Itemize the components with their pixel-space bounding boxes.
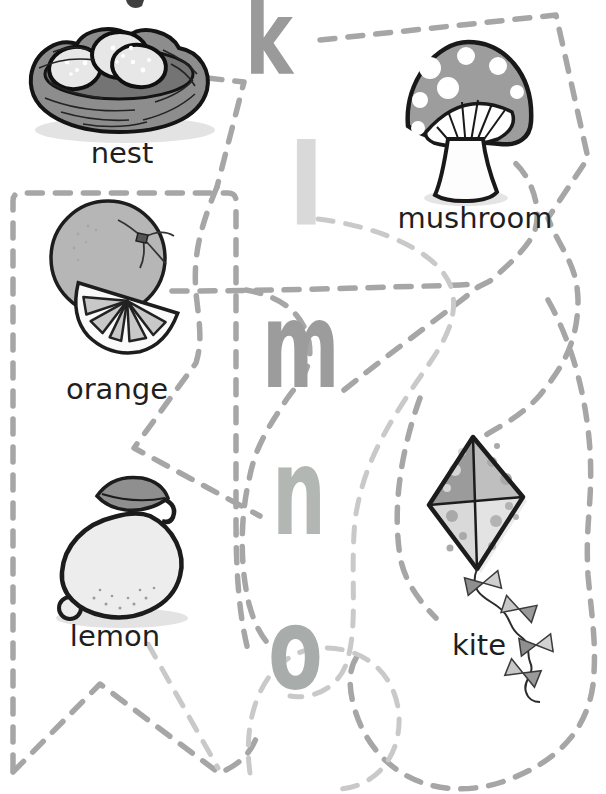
letter-k[interactable]: k [245,0,293,90]
kite-illustration[interactable] [429,437,553,702]
orange-illustration[interactable] [51,201,178,366]
letter-n[interactable]: n [272,431,326,553]
letter-m[interactable]: m [262,286,340,406]
nest-illustration[interactable] [31,29,215,143]
mushroom-label: mushroom [395,201,555,235]
worksheet-page: k l m n o nest mushroom orange lemon kit… [0,0,606,794]
orange-label: orange [54,372,180,406]
lemon-label: lemon [52,619,178,653]
kite-label: kite [428,628,530,662]
tracing-line [13,684,258,773]
mushroom-illustration[interactable] [408,42,532,206]
letter-o[interactable]: o [268,592,323,706]
nest-label: nest [60,136,184,170]
letter-l[interactable]: l [288,129,324,241]
cropped-title-fragment [126,0,144,8]
lemon-illustration[interactable] [56,477,188,628]
